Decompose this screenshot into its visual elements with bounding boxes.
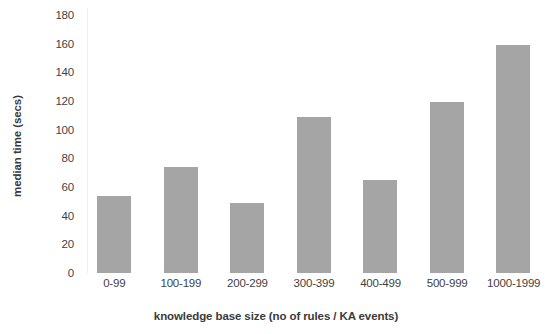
x-axis-tick-label: 200-299 (214, 277, 281, 289)
x-axis-tick-label: 1000-1999 (480, 277, 547, 289)
plot-area (81, 8, 547, 273)
x-axis-title: knowledge base size (no of rules / KA ev… (0, 310, 552, 322)
y-axis-tick-label: 0 (22, 268, 74, 279)
y-axis-tick-label: 160 (22, 38, 74, 49)
bar[interactable] (97, 196, 131, 273)
y-axis-tick-label: 80 (22, 153, 74, 164)
y-axis-tick-label: 40 (22, 210, 74, 221)
bar[interactable] (430, 102, 464, 273)
x-axis-tick-label: 0-99 (81, 277, 148, 289)
x-axis-tick-label: 300-399 (281, 277, 348, 289)
y-axis-tick-labels: 020406080100120140160180 (22, 0, 74, 290)
x-axis-tick-label: 400-499 (347, 277, 414, 289)
y-axis-tick-label: 180 (22, 10, 74, 21)
y-axis-line (87, 8, 88, 273)
bar-chart: median time (secs) 020406080100120140160… (0, 0, 552, 334)
y-axis-tick-label: 120 (22, 96, 74, 107)
bar[interactable] (230, 203, 264, 273)
x-axis-tick-label: 500-999 (414, 277, 481, 289)
bar[interactable] (297, 117, 331, 273)
y-axis-tick-label: 60 (22, 182, 74, 193)
bar[interactable] (363, 180, 397, 273)
bar[interactable] (164, 167, 198, 273)
x-axis-tick-label: 100-199 (148, 277, 215, 289)
bar[interactable] (496, 45, 530, 273)
y-axis-tick-label: 140 (22, 67, 74, 78)
x-axis-tick-labels: 0-99100-199200-299300-399400-499500-9991… (81, 277, 547, 297)
y-axis-tick-label: 20 (22, 239, 74, 250)
y-axis-tick-label: 100 (22, 124, 74, 135)
